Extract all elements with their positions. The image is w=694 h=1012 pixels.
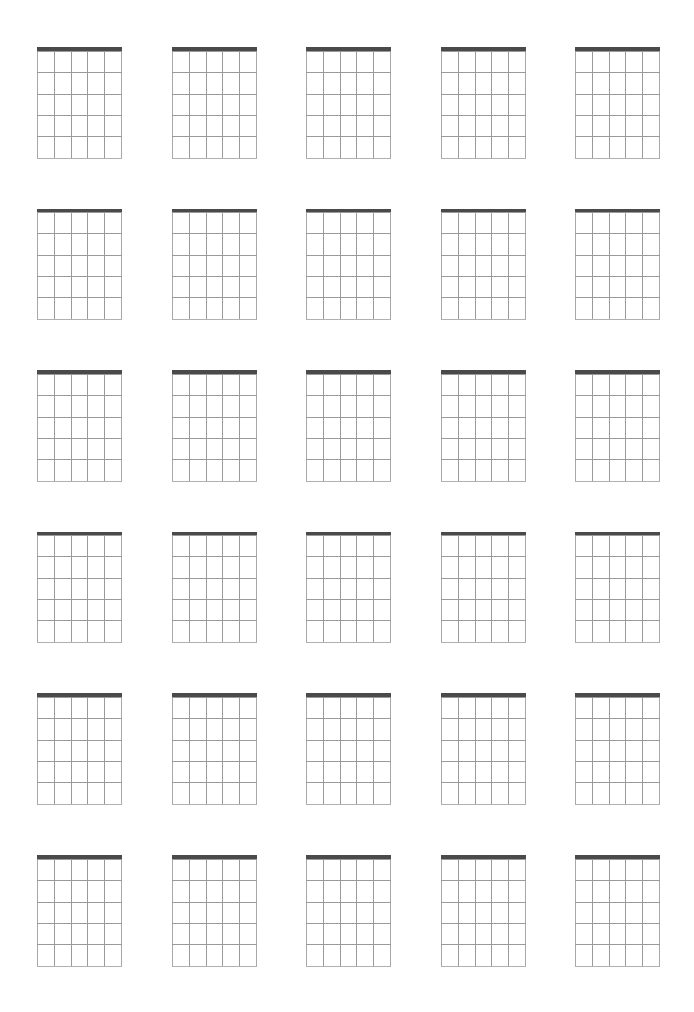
chord-diagram[interactable] bbox=[306, 209, 391, 320]
string-line-3 bbox=[475, 51, 476, 159]
fret-line-0 bbox=[306, 535, 391, 536]
fret-line-3 bbox=[37, 761, 122, 762]
string-line-5 bbox=[373, 697, 374, 805]
string-line-1 bbox=[172, 51, 173, 159]
string-line-6 bbox=[390, 374, 391, 482]
fret-line-3 bbox=[172, 599, 257, 600]
string-line-4 bbox=[625, 51, 626, 159]
chord-diagram[interactable] bbox=[37, 47, 122, 158]
chord-diagram[interactable] bbox=[575, 209, 660, 320]
chord-diagram[interactable] bbox=[441, 209, 526, 320]
fret-line-0 bbox=[441, 859, 526, 860]
string-line-5 bbox=[642, 374, 643, 482]
chord-diagram[interactable] bbox=[441, 532, 526, 643]
chord-diagram[interactable] bbox=[306, 370, 391, 481]
chord-diagram[interactable] bbox=[172, 47, 257, 158]
fret-line-0 bbox=[172, 374, 257, 375]
fret-line-3 bbox=[37, 923, 122, 924]
chord-diagram[interactable] bbox=[172, 209, 257, 320]
chord-diagram[interactable] bbox=[306, 47, 391, 158]
chord-diagram[interactable] bbox=[172, 532, 257, 643]
chord-diagram[interactable] bbox=[441, 855, 526, 966]
fret-line-2 bbox=[306, 902, 391, 903]
fret-line-5 bbox=[306, 642, 391, 643]
string-line-5 bbox=[239, 535, 240, 643]
string-line-4 bbox=[625, 535, 626, 643]
chord-diagram[interactable] bbox=[37, 370, 122, 481]
fret-line-3 bbox=[172, 761, 257, 762]
fret-line-3 bbox=[575, 438, 660, 439]
fret-line-4 bbox=[575, 620, 660, 621]
string-line-6 bbox=[659, 859, 660, 967]
string-line-4 bbox=[222, 697, 223, 805]
string-line-1 bbox=[172, 212, 173, 320]
fret-line-5 bbox=[172, 804, 257, 805]
chord-diagram[interactable] bbox=[306, 693, 391, 804]
chord-diagram[interactable] bbox=[441, 370, 526, 481]
chord-diagram[interactable] bbox=[575, 693, 660, 804]
chord-diagram[interactable] bbox=[575, 370, 660, 481]
fret-line-3 bbox=[172, 115, 257, 116]
fret-line-3 bbox=[306, 761, 391, 762]
fret-line-4 bbox=[306, 782, 391, 783]
fret-line-4 bbox=[441, 782, 526, 783]
chord-diagram[interactable] bbox=[37, 209, 122, 320]
fret-line-2 bbox=[37, 94, 122, 95]
string-line-4 bbox=[356, 51, 357, 159]
fret-line-5 bbox=[306, 319, 391, 320]
fret-line-1 bbox=[172, 72, 257, 73]
string-line-4 bbox=[87, 697, 88, 805]
string-line-5 bbox=[104, 51, 105, 159]
chord-diagram[interactable] bbox=[575, 532, 660, 643]
string-line-2 bbox=[323, 51, 324, 159]
chord-diagram[interactable] bbox=[306, 532, 391, 643]
string-line-6 bbox=[525, 51, 526, 159]
string-line-6 bbox=[390, 859, 391, 967]
chord-diagram[interactable] bbox=[441, 693, 526, 804]
string-line-4 bbox=[222, 535, 223, 643]
chord-diagram[interactable] bbox=[441, 47, 526, 158]
string-line-2 bbox=[458, 212, 459, 320]
string-line-4 bbox=[356, 535, 357, 643]
chord-diagram[interactable] bbox=[172, 693, 257, 804]
chord-diagram-grid bbox=[37, 47, 660, 966]
fretboard bbox=[172, 212, 257, 320]
chord-diagram[interactable] bbox=[37, 532, 122, 643]
string-line-2 bbox=[54, 212, 55, 320]
fret-line-3 bbox=[306, 276, 391, 277]
fret-line-4 bbox=[441, 297, 526, 298]
fret-line-3 bbox=[37, 276, 122, 277]
fret-line-0 bbox=[441, 697, 526, 698]
fretboard bbox=[306, 859, 391, 967]
fretboard bbox=[37, 697, 122, 805]
fret-line-4 bbox=[172, 620, 257, 621]
fret-line-5 bbox=[172, 319, 257, 320]
fret-line-4 bbox=[172, 459, 257, 460]
string-line-6 bbox=[390, 697, 391, 805]
string-line-5 bbox=[508, 374, 509, 482]
fret-line-5 bbox=[441, 642, 526, 643]
chord-diagram[interactable] bbox=[37, 855, 122, 966]
chord-diagram[interactable] bbox=[575, 47, 660, 158]
chord-diagram[interactable] bbox=[37, 693, 122, 804]
fret-line-5 bbox=[575, 319, 660, 320]
fret-line-3 bbox=[441, 276, 526, 277]
string-line-3 bbox=[475, 374, 476, 482]
chord-diagram[interactable] bbox=[172, 855, 257, 966]
fret-line-4 bbox=[575, 136, 660, 137]
chord-diagram[interactable] bbox=[172, 370, 257, 481]
string-line-2 bbox=[592, 212, 593, 320]
chord-diagram[interactable] bbox=[575, 855, 660, 966]
fret-line-3 bbox=[441, 438, 526, 439]
fret-line-3 bbox=[575, 599, 660, 600]
fret-line-1 bbox=[172, 556, 257, 557]
string-line-5 bbox=[642, 697, 643, 805]
string-line-2 bbox=[54, 697, 55, 805]
string-line-6 bbox=[256, 374, 257, 482]
string-line-1 bbox=[37, 859, 38, 967]
fret-line-1 bbox=[575, 233, 660, 234]
string-line-2 bbox=[54, 859, 55, 967]
string-line-3 bbox=[340, 374, 341, 482]
chord-diagram[interactable] bbox=[306, 855, 391, 966]
string-line-1 bbox=[306, 697, 307, 805]
